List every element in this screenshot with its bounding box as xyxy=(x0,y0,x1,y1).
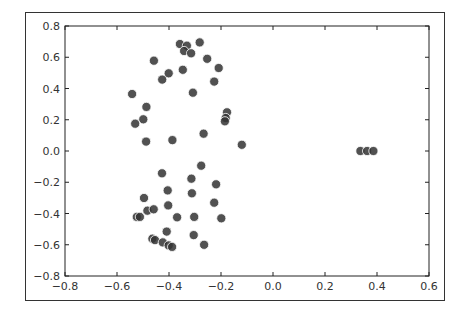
data-point xyxy=(195,38,204,47)
data-point xyxy=(369,146,378,155)
y-tick-label: −0.2 xyxy=(33,176,60,189)
y-tick-label: −0.4 xyxy=(33,208,60,221)
data-point xyxy=(178,65,187,74)
data-point xyxy=(142,102,151,111)
data-point xyxy=(149,205,158,214)
data-point xyxy=(173,213,182,222)
data-point xyxy=(189,231,198,240)
x-tick-label: −0.6 xyxy=(104,280,131,293)
data-point xyxy=(220,117,229,126)
y-axis-tick-labels: 0.80.60.40.20.0−0.2−0.4−0.6−0.8 xyxy=(33,20,60,283)
data-point xyxy=(214,63,223,72)
data-point xyxy=(190,212,199,221)
scatter-chart: −0.8−0.6−0.4−0.20.00.20.40.6 0.80.60.40.… xyxy=(0,0,467,312)
x-tick-label: 0.4 xyxy=(368,280,386,293)
data-point xyxy=(135,212,144,221)
x-tick-label: −0.2 xyxy=(208,280,235,293)
x-tick-label: −0.4 xyxy=(156,280,183,293)
data-point xyxy=(168,136,177,145)
data-point xyxy=(210,198,219,207)
data-point xyxy=(197,161,206,170)
data-point xyxy=(164,201,173,210)
data-point xyxy=(162,227,171,236)
x-tick-label: 0.2 xyxy=(316,280,334,293)
data-point xyxy=(149,56,158,65)
data-point xyxy=(210,77,219,86)
data-point xyxy=(200,240,209,249)
data-point xyxy=(187,189,196,198)
y-tick-label: 0.0 xyxy=(43,145,61,158)
data-point xyxy=(237,140,246,149)
data-point xyxy=(187,174,196,183)
data-point xyxy=(142,137,151,146)
data-point xyxy=(188,88,197,97)
y-tick-label: 0.8 xyxy=(43,20,61,33)
data-point xyxy=(139,193,148,202)
data-point xyxy=(158,75,167,84)
data-point xyxy=(131,119,140,128)
y-tick-label: −0.6 xyxy=(33,239,60,252)
data-point xyxy=(199,129,208,138)
y-tick-label: 0.2 xyxy=(43,114,61,127)
data-point xyxy=(203,54,212,63)
y-tick-label: 0.4 xyxy=(43,83,61,96)
data-point xyxy=(157,169,166,178)
data-point xyxy=(212,180,221,189)
y-tick-label: −0.8 xyxy=(33,270,60,283)
x-tick-label: 0.0 xyxy=(264,280,282,293)
data-point xyxy=(163,186,172,195)
data-point xyxy=(139,115,148,124)
x-axis-tick-labels: −0.8−0.6−0.4−0.20.00.20.40.6 xyxy=(52,280,438,293)
data-point xyxy=(217,214,226,223)
data-point xyxy=(187,49,196,58)
x-tick-label: 0.6 xyxy=(420,280,438,293)
data-point xyxy=(168,242,177,251)
y-tick-label: 0.6 xyxy=(43,51,61,64)
data-point xyxy=(128,89,137,98)
